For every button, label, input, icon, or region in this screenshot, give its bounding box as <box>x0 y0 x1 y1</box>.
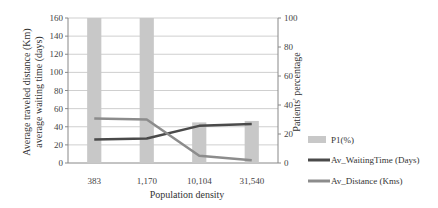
left-axis-title-line1: Average traveled distance (Km) <box>21 28 33 155</box>
left-tick-label: 0 <box>59 158 64 168</box>
left-axis-title-line2: average waiting time (days) <box>33 36 45 147</box>
line-series <box>94 119 252 161</box>
left-tick-label: 160 <box>50 13 64 23</box>
x-tick-label: 10,104 <box>187 176 212 186</box>
right-axis-title: Patients' percentage <box>291 52 302 132</box>
left-tick-label: 120 <box>50 49 64 59</box>
left-axis-ticks: 020406080100120140160 <box>50 13 69 168</box>
x-tick-label: 1,170 <box>137 176 158 186</box>
right-tick-label: 80 <box>284 42 294 52</box>
bar-31,540 <box>245 121 259 163</box>
left-tick-label: 40 <box>54 122 64 132</box>
left-tick-label: 60 <box>54 104 64 114</box>
x-tick-label: 31,540 <box>239 176 264 186</box>
legend-label-distance: Av_Distance (Kms) <box>331 176 403 186</box>
x-axis-title: Population density <box>150 189 225 200</box>
bar-383 <box>87 18 101 163</box>
legend-label-p1: P1(%) <box>331 135 354 145</box>
left-tick-label: 20 <box>54 140 64 150</box>
x-axis-ticks: 3831,17010,10431,540 <box>88 176 265 186</box>
legend: P1(%) Av_WaitingTime (Days) Av_Distance … <box>308 135 420 186</box>
chart: 020406080100120140160 020406080100 3831,… <box>0 0 438 208</box>
x-tick-label: 383 <box>88 176 102 186</box>
left-tick-label: 140 <box>50 31 64 41</box>
right-tick-label: 0 <box>284 158 289 168</box>
left-tick-label: 80 <box>54 86 64 96</box>
bar-1,170 <box>140 18 154 163</box>
left-tick-label: 100 <box>50 67 64 77</box>
legend-swatch-p1 <box>308 136 326 143</box>
legend-label-waiting: Av_WaitingTime (Days) <box>331 155 420 165</box>
right-tick-label: 100 <box>284 13 298 23</box>
